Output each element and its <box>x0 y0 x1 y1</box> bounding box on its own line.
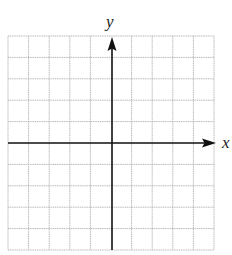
y-axis-label: y <box>106 13 114 30</box>
axes <box>8 46 206 250</box>
grid-svg <box>0 0 232 255</box>
x-axis-label: x <box>222 134 230 151</box>
coordinate-plane: y x <box>0 0 232 255</box>
